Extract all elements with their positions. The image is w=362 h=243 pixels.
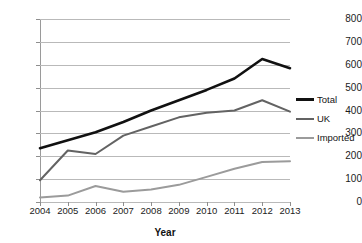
legend-swatch-icon: [296, 118, 314, 120]
legend-label: UK: [317, 114, 330, 124]
x-axis-tick-label: 2005: [53, 205, 83, 216]
y-axis-tick-label: 100: [328, 174, 362, 184]
x-axis-title: Year: [0, 227, 330, 238]
x-axis-tick-label: 2008: [136, 205, 166, 216]
x-axis-tick-label: 2009: [164, 205, 194, 216]
x-axis-tick-mark: [68, 202, 69, 206]
legend-item-imported[interactable]: Imported: [296, 130, 362, 145]
chart-legend: TotalUKImported: [296, 92, 362, 149]
legend-item-uk[interactable]: UK: [296, 111, 362, 126]
y-axis-tick-label: 700: [328, 37, 362, 47]
x-axis-tick-mark: [290, 202, 291, 206]
x-axis-tick-label: 2013: [275, 205, 305, 216]
series-lines: [40, 19, 290, 202]
legend-swatch-icon: [296, 137, 314, 139]
x-axis-tick-mark: [262, 202, 263, 206]
y-axis-tick-label: 200: [328, 151, 362, 161]
x-axis-tick-mark: [40, 202, 41, 206]
x-axis-tick-mark: [207, 202, 208, 206]
y-axis-tick-label: 800: [328, 14, 362, 24]
x-axis-tick-label: 2007: [108, 205, 138, 216]
line-chart: 0100200300400500600700800 20042005200620…: [0, 0, 362, 243]
x-axis-tick-mark: [234, 202, 235, 206]
legend-label: Imported: [317, 133, 355, 143]
plot-area: [40, 19, 290, 202]
series-line-uk: [40, 100, 290, 180]
series-line-imported: [40, 161, 290, 197]
x-axis-tick-label: 2004: [25, 205, 55, 216]
x-axis-tick-mark: [179, 202, 180, 206]
x-axis-tick-label: 2006: [81, 205, 111, 216]
x-axis-tick-mark: [151, 202, 152, 206]
y-axis-tick-label: 600: [328, 60, 362, 70]
gridline: [40, 202, 290, 203]
x-axis-tick-mark: [123, 202, 124, 206]
x-axis-tick-mark: [96, 202, 97, 206]
x-axis-tick-label: 2010: [192, 205, 222, 216]
legend-label: Total: [317, 95, 337, 105]
x-axis-tick-label: 2011: [219, 205, 249, 216]
legend-item-total[interactable]: Total: [296, 92, 362, 107]
legend-swatch-icon: [296, 98, 314, 101]
x-axis-tick-label: 2012: [247, 205, 277, 216]
y-axis-tick-label: 0: [328, 197, 362, 207]
